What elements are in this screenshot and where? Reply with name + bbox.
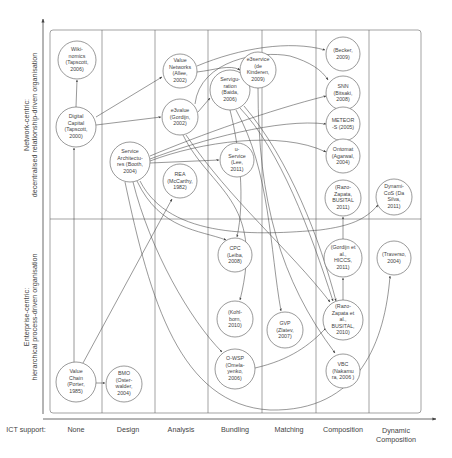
col-label-design: Design	[117, 425, 139, 434]
node-label: (Razo-	[335, 303, 351, 309]
node-label: (McCarthy,	[167, 178, 193, 184]
node-label: (Tapscott,	[66, 59, 89, 65]
node-label: HICCS,	[334, 257, 352, 263]
node-label: Ontomat	[333, 146, 354, 152]
col-label-analysis: Analysis	[168, 425, 195, 434]
node-label: GVP	[279, 320, 291, 326]
node-label: ra, 2006 )	[332, 374, 355, 380]
node-label: BUSITAL,	[331, 323, 354, 329]
col-label-dynamic-2: Composition	[376, 435, 416, 444]
node-label: u-	[235, 146, 240, 152]
node-label: SNN	[337, 83, 348, 89]
node-label: ration	[223, 83, 236, 89]
node-label: 2008)	[336, 96, 350, 102]
node-label: (Gordijn,	[170, 114, 190, 120]
col-label-composition: Composition	[323, 425, 363, 434]
node-label: 1982)	[173, 184, 187, 190]
node-label: (Gordijn et	[331, 244, 356, 250]
node-label: 2006)	[228, 375, 242, 381]
node-label: (Oster-	[116, 377, 133, 383]
node-label: 2011)	[336, 264, 349, 270]
node-label: 2010)	[228, 322, 242, 328]
edge	[240, 108, 333, 301]
node-label: Value	[69, 368, 82, 374]
node-label: nomics	[69, 53, 86, 59]
node-label: walder,	[116, 383, 133, 389]
node-label: 2006)	[70, 66, 84, 72]
node-label: (Nakamu	[332, 368, 354, 374]
edge	[150, 160, 219, 163]
col-label-dynamic: Dynamic	[382, 426, 410, 435]
edge	[258, 88, 335, 353]
node-label: (Razo-	[335, 184, 351, 190]
node-label: 2008)	[228, 258, 242, 264]
col-label-matching: Matching	[274, 425, 303, 434]
node-label: Kinderen,	[247, 69, 270, 75]
edge	[96, 117, 161, 125]
node-label: (Lee,	[231, 159, 243, 165]
node-label: 2010)	[336, 329, 350, 335]
node-label: (Kohl-	[228, 309, 242, 315]
node-label: REA	[175, 171, 186, 177]
node-label: 2004)	[117, 390, 131, 396]
node-label: 2011)	[336, 204, 349, 210]
node-label: Dynami-	[384, 183, 404, 189]
node-label: (Baida,	[222, 89, 239, 95]
edge	[96, 77, 162, 117]
y-axis-labels: Network-centric: decentralised relations…	[22, 53, 39, 381]
node-label: (Traverso,	[382, 251, 406, 257]
node-label: Chain	[69, 375, 83, 381]
edge	[83, 199, 172, 363]
node-label: 2007)	[278, 333, 292, 339]
node-label: -S (2005)	[332, 124, 354, 130]
node-label: born,	[229, 316, 241, 322]
node-label: CPC	[229, 245, 240, 251]
node-label: yenko,	[227, 368, 243, 374]
node-label: Value	[173, 57, 186, 63]
node-label: res (Booth,	[117, 161, 143, 167]
node-label: al.,	[339, 316, 346, 322]
node-label: (Zlatev,	[276, 327, 293, 333]
node-label: Zapata et	[332, 310, 355, 316]
node-label: e3service	[247, 56, 270, 62]
node-label: BUSITAL	[332, 197, 354, 203]
node-label: al.,	[339, 251, 346, 257]
node-label: 2006)	[223, 96, 237, 102]
node-label: Silva,	[388, 196, 401, 202]
node-label: CoS (Da	[384, 190, 404, 196]
y-bottom-label-2: hierarchical process-driven organisation	[30, 253, 39, 380]
node-label: 2009)	[336, 54, 350, 60]
node-label: Servigu-	[220, 76, 240, 82]
node-label: Service	[228, 153, 246, 159]
node-label: 2004)	[123, 168, 137, 174]
node-label: 2004)	[387, 258, 401, 264]
node-label: 2009)	[251, 76, 265, 82]
node-label: (Porter,	[67, 381, 84, 387]
approach-landscape-diagram: Network-centric: decentralised relations…	[0, 0, 452, 458]
node-label: Networks	[169, 64, 191, 70]
node-label: (Omela-	[225, 362, 244, 368]
node-label: (Allee,	[172, 70, 187, 76]
node-label: BMO	[118, 370, 130, 376]
node-label: Digital	[69, 113, 84, 119]
node-label: e3value	[171, 107, 190, 113]
node-label: (Tapscott,	[65, 126, 88, 132]
node-label: (de	[254, 63, 262, 69]
node-label: 2002)	[173, 77, 187, 83]
node-label: 2011)	[230, 166, 243, 172]
node-label: METEOR	[332, 117, 355, 123]
node-label: Service	[121, 148, 139, 154]
node-label: (Leiba,	[227, 252, 243, 258]
node-label: O-WSP	[226, 355, 244, 361]
col-label-bundling: Bundling	[221, 425, 249, 434]
edge	[244, 106, 336, 301]
node-label: Zapata,	[334, 191, 352, 197]
node-label: 1985)	[69, 388, 83, 394]
node-label: Architectu-	[117, 155, 143, 161]
edge	[76, 80, 77, 107]
edge	[186, 135, 330, 302]
x-axis-title: ICT support:	[6, 425, 45, 434]
node-label: 2002)	[173, 120, 187, 126]
node-label: (Agarwal,	[332, 153, 354, 159]
col-label-none: None	[67, 425, 84, 434]
